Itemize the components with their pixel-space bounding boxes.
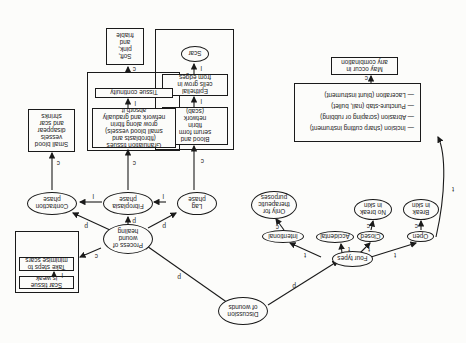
label-intentional-therapeutic: c bbox=[276, 224, 279, 231]
node-no-break-in-skin: No break in skin bbox=[354, 199, 392, 220]
node-break-in-skin: Break in skin bbox=[403, 199, 439, 220]
label-fibro-contraction: l bbox=[93, 193, 94, 200]
node-tissue-continuity: Tissue continuity bbox=[95, 88, 173, 98]
label-tissue-soft: c bbox=[133, 66, 136, 73]
label-open-break: c bbox=[415, 223, 418, 230]
label-types-accidental: t bbox=[348, 246, 350, 253]
node-fibroplasia-phase: Fibroplasia phase bbox=[103, 192, 153, 215]
node-small-blood-vessels: Small blood vessels disappear and scar s… bbox=[28, 109, 75, 152]
label-list-combination: c bbox=[365, 75, 368, 82]
node-soft-pink-friable: Soft, pink, and friable bbox=[106, 28, 144, 65]
label-types-open: t bbox=[394, 252, 396, 259]
node-four-types: Four types bbox=[332, 251, 373, 267]
label-root-healing: p bbox=[177, 274, 181, 281]
label-healing-fibro: p bbox=[132, 218, 136, 225]
node-take-steps: Take steps to minimise scars bbox=[19, 257, 74, 271]
label-scarweak-steps: l bbox=[62, 272, 63, 279]
label-blood-epith: l bbox=[201, 98, 202, 105]
node-therapeutic-purposes: Only for therapeutic purposes bbox=[251, 191, 297, 219]
label-healing-contraction: p bbox=[84, 223, 88, 230]
label-types-closed: t bbox=[368, 246, 370, 253]
label-lag-fibro: l bbox=[163, 193, 164, 200]
label-contraction-vessels: c bbox=[57, 160, 60, 167]
node-scar-tissue-weak: Scar tissue is weak bbox=[19, 276, 74, 289]
node-accidental: Accidental bbox=[316, 231, 354, 243]
node-wound-types-list: — Incision (sharp cutting instrument) — … bbox=[294, 83, 421, 142]
list-item-abrasion: — Abrasion (scraping or rubbing) bbox=[320, 115, 414, 122]
node-process-of-wound-healing: Process of wound healing bbox=[103, 224, 153, 254]
label-root-types: p bbox=[292, 283, 296, 290]
node-closed: Closed bbox=[357, 231, 384, 242]
node-granulation-tissues: Granulation tissues (fibroblasts and sma… bbox=[92, 108, 176, 148]
label-closed-nobreak: c bbox=[367, 223, 370, 230]
node-any-combination: May occur in any combination bbox=[331, 57, 398, 75]
label-healing-lag: p bbox=[162, 223, 166, 230]
label-types-intentional: t bbox=[304, 252, 306, 259]
label-healing-scarweak: c bbox=[95, 253, 98, 260]
label-lag-blood: c bbox=[201, 158, 204, 165]
concept-map-diagram: Discussion of wounds Process of wound he… bbox=[0, 0, 466, 343]
label-open-list: t bbox=[452, 186, 454, 193]
node-lag-phase: Lag phase bbox=[177, 192, 217, 215]
node-open: Open bbox=[407, 231, 434, 242]
list-item-puncture: — Puncture-stab (nail, bullet) bbox=[331, 104, 414, 111]
label-gran-tissue: l bbox=[135, 100, 136, 107]
list-item-incision: — Incision (sharp cutting instrument) bbox=[310, 126, 414, 133]
label-fibro-gran: c bbox=[133, 160, 136, 167]
list-item-laceration: — Laceration (blunt instrument) bbox=[324, 93, 414, 100]
node-discussion-of-wounds: Discussion of wounds bbox=[218, 297, 268, 325]
node-contraction-phase: Contraction phase bbox=[27, 192, 77, 215]
node-scar: Scar bbox=[181, 46, 209, 62]
label-epith-scar: l bbox=[201, 65, 202, 72]
node-intentional: Intentional bbox=[262, 230, 304, 243]
